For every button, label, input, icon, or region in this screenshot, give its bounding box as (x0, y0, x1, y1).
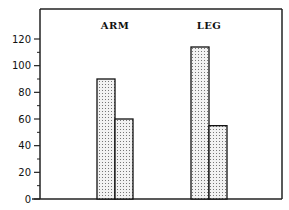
y-tick-label: 60 (18, 114, 31, 125)
bars (97, 47, 227, 199)
bar-leg-1 (191, 47, 209, 199)
y-tick-label: 40 (18, 140, 31, 151)
bar-chart: 020406080100120 ARMLEG (0, 0, 289, 210)
bar-arm-2 (115, 119, 133, 199)
plot-frame (32, 9, 282, 199)
bar-arm-1 (97, 79, 115, 199)
group-labels: ARMLEG (100, 20, 222, 31)
y-tick-label: 20 (18, 167, 31, 178)
y-axis: 020406080100120 (12, 34, 40, 205)
y-tick-label: 120 (12, 34, 31, 45)
category-label: LEG (197, 20, 222, 31)
bar-leg-2 (209, 126, 227, 199)
y-tick-label: 100 (12, 60, 31, 71)
category-label: ARM (100, 20, 130, 31)
y-tick-label: 0 (25, 194, 31, 205)
y-tick-label: 80 (18, 87, 31, 98)
